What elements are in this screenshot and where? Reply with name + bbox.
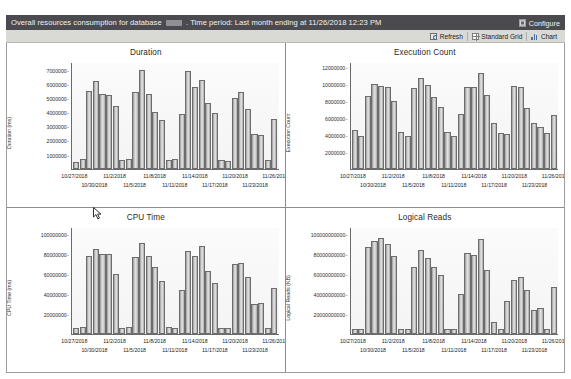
bar <box>119 328 125 334</box>
x-axis-tick-label: 10/30/2018 <box>360 347 386 353</box>
bar <box>431 267 437 334</box>
standard-grid-button[interactable]: Standard Grid <box>468 31 527 42</box>
bar <box>265 328 271 334</box>
x-axis-tick-label: 11/23/2018 <box>242 347 268 353</box>
y-axis-tick-label: 7000000 <box>47 68 69 74</box>
chart-panel-execution-count[interactable]: Execution Count Execution Count 20000004… <box>286 43 565 208</box>
bar <box>391 101 397 169</box>
bar <box>551 287 557 334</box>
configure-label: Configure <box>529 18 560 27</box>
bar-chart-icon <box>531 33 538 40</box>
x-axis-tick-label: 11/14/2018 <box>182 173 208 179</box>
x-axis-tick-label: 11/23/2018 <box>242 182 268 188</box>
bar <box>119 160 125 168</box>
x-axis-tick-label: 10/27/2018 <box>61 173 87 179</box>
plot-area-logical-reads: Logical Reads (KB) 200000000004000000000… <box>286 224 563 373</box>
bar <box>531 310 537 334</box>
bar <box>531 123 537 168</box>
x-axis-tick-label: 11/5/2018 <box>123 182 146 188</box>
bar <box>544 329 550 334</box>
y-axis-tick-label: 40000000 <box>44 292 69 298</box>
chart-grid: Duration Duration (ms) 10000002000000300… <box>6 43 565 373</box>
chart-title-execution-count: Execution Count <box>286 48 565 57</box>
x-axis-tick-label: 11/20/2018 <box>222 173 248 179</box>
bar <box>371 241 377 334</box>
bar <box>265 160 271 168</box>
plot-area-cpu-time: CPU Time (ms) 20000000400000006000000080… <box>7 224 283 373</box>
x-axis-tick-label: 11/17/2018 <box>202 347 228 353</box>
bar <box>172 159 178 169</box>
bar <box>106 95 112 169</box>
bar <box>425 258 431 334</box>
bar <box>126 159 132 168</box>
x-axis-tick-label: 11/8/2018 <box>143 173 166 179</box>
bar <box>471 87 477 168</box>
chart-panel-duration[interactable]: Duration Duration (ms) 10000002000000300… <box>7 43 286 208</box>
bar <box>511 86 517 168</box>
bar <box>146 256 152 334</box>
bar <box>411 267 417 334</box>
x-axis-ticks-logical-reads: 10/27/201810/30/201811/2/201811/5/201811… <box>350 336 559 364</box>
x-axis-tick-label: 10/30/2018 <box>81 182 107 188</box>
bar-series-cpu-time <box>73 228 278 335</box>
bar <box>271 119 277 169</box>
y-axis-tick-label: 100000000 <box>41 232 69 238</box>
bar <box>464 253 470 334</box>
refresh-button[interactable]: Refresh <box>426 31 467 42</box>
bar <box>139 70 145 169</box>
x-axis-ticks-execution-count: 10/27/201810/30/201811/2/201811/5/201811… <box>350 171 559 199</box>
bar <box>179 290 185 334</box>
bar-series-logical-reads <box>352 228 558 335</box>
configure-button[interactable]: Configure <box>519 18 560 27</box>
y-axis-tick-label: 6000000 <box>325 116 347 122</box>
bar <box>391 256 397 334</box>
dashboard-header: Overall resources consumption for databa… <box>6 15 565 30</box>
bar <box>484 270 490 334</box>
x-axis-tick-label: 10/27/2018 <box>61 338 87 344</box>
bar <box>352 130 358 169</box>
x-axis-tick-label: 11/5/2018 <box>402 347 425 353</box>
bar <box>73 328 79 334</box>
x-axis-tick-label: 11/26/2018 <box>262 338 285 344</box>
bar <box>431 97 437 169</box>
bar <box>398 132 404 169</box>
bar <box>146 94 152 169</box>
y-axis-ticks-execution-count: 2000000400000060000008000000100000001200… <box>298 63 348 170</box>
chart-label: Chart <box>541 33 557 40</box>
bar <box>192 87 198 169</box>
bar <box>99 254 105 334</box>
configure-icon <box>519 19 526 26</box>
x-axis-tick-label: 10/30/2018 <box>81 347 107 353</box>
x-axis-tick-label: 11/14/2018 <box>461 173 487 179</box>
chart-title-cpu-time: CPU Time <box>7 213 285 222</box>
plot-area-execution-count: Execution Count 200000040000006000000800… <box>286 59 563 207</box>
bar <box>225 161 231 169</box>
bar <box>438 275 444 334</box>
chart-panel-cpu-time[interactable]: CPU Time CPU Time (ms) 20000000400000006… <box>7 208 286 373</box>
x-axis-tick-label: 11/14/2018 <box>182 338 208 344</box>
bar <box>491 322 497 334</box>
chart-panel-logical-reads[interactable]: Logical Reads Logical Reads (KB) 2000000… <box>286 208 565 373</box>
bar <box>152 112 158 169</box>
bar <box>205 103 211 168</box>
y-axis-tick-label: 20000000 <box>44 312 69 318</box>
x-axis-tick-label: 11/26/2018 <box>262 173 285 179</box>
chart-button[interactable]: Chart <box>527 31 561 42</box>
y-axis-label-execution-count: Execution Count <box>286 113 291 152</box>
bar <box>418 250 424 334</box>
bar <box>258 135 264 168</box>
x-axis-tick-label: 11/2/2018 <box>103 173 126 179</box>
bar <box>464 87 470 168</box>
bar <box>451 136 457 169</box>
bar <box>185 71 191 168</box>
bar <box>378 86 384 169</box>
bar-series-execution-count <box>352 63 558 169</box>
bar <box>80 159 86 169</box>
bar <box>504 134 510 168</box>
x-axis-ticks-cpu-time: 10/27/201810/30/201811/2/201811/5/201811… <box>71 336 279 364</box>
bar <box>478 73 484 168</box>
x-axis-tick-label: 11/20/2018 <box>501 338 527 344</box>
x-axis-tick-label: 11/11/2018 <box>162 347 187 353</box>
y-axis-tick-label: 5000000 <box>47 96 69 102</box>
bar <box>73 162 79 169</box>
